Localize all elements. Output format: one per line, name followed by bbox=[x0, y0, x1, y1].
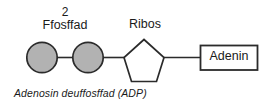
ribose-label: Ribos bbox=[108, 18, 182, 31]
phosphate-count-label: 2 bbox=[0, 6, 130, 19]
diagram-caption: Adenosin deuffosffad (ADP) bbox=[14, 88, 147, 99]
phosphate-circle-2 bbox=[73, 42, 103, 72]
adp-structure-diagram: 2 Ffosffad Ribos Adenin Adenosin deuffos… bbox=[0, 0, 268, 111]
adenine-label: Adenin bbox=[200, 50, 258, 63]
ribose-pentagon bbox=[124, 40, 164, 82]
phosphate-circle-1 bbox=[27, 42, 57, 72]
